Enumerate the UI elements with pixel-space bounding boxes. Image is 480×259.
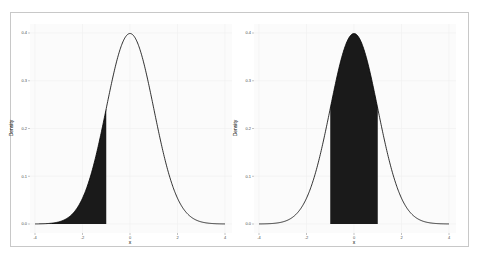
y-tick-label: 0.2 — [21, 126, 27, 131]
chart-canvas: 0.00.10.20.30.4-4-2024xDensity 0.00.10.2… — [0, 0, 480, 259]
x-tick-label: -4 — [257, 235, 261, 240]
y-tick-label: 0.0 — [21, 221, 27, 226]
left-density-panel: 0.00.10.20.30.4-4-2024xDensity — [8, 24, 232, 245]
y-tick-label: 0.1 — [21, 174, 27, 179]
y-tick-label: 0.3 — [245, 78, 251, 83]
y-axis-title: Density — [232, 119, 238, 136]
x-tick-label: 2 — [176, 235, 179, 240]
y-tick-label: 0.4 — [245, 30, 251, 35]
x-tick-label: -4 — [33, 235, 37, 240]
y-tick-label: 0.4 — [21, 30, 27, 35]
x-axis-title: x — [353, 239, 356, 245]
y-axis-title: Density — [8, 119, 14, 136]
y-tick-label: 0.3 — [21, 78, 27, 83]
x-tick-label: 4 — [448, 235, 451, 240]
x-axis-title: x — [129, 239, 132, 245]
right-density-panel: 0.00.10.20.30.4-4-2024xDensity — [232, 24, 456, 245]
y-tick-label: 0.1 — [245, 174, 251, 179]
x-tick-label: -2 — [305, 235, 309, 240]
y-tick-label: 0.2 — [245, 126, 251, 131]
y-tick-label: 0.0 — [245, 221, 251, 226]
x-tick-label: 2 — [400, 235, 403, 240]
x-tick-label: -2 — [81, 235, 85, 240]
x-tick-label: 4 — [224, 235, 227, 240]
